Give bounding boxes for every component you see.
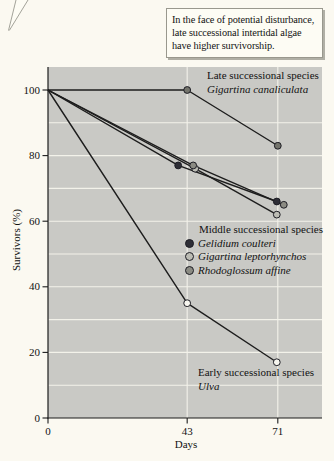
legend-item-rhodoglossum-affine: Rhodoglossum affine <box>185 264 323 278</box>
legend-label: Rhodoglossum affine <box>198 264 291 278</box>
series-marker <box>184 87 191 94</box>
rhodoglossum-affine-marker-icon <box>185 266 194 275</box>
legend-label: Gigartina leptorhynchos <box>198 250 306 264</box>
callout-line-3: have higher survivorship. <box>172 39 317 52</box>
y-tick-label: 60 <box>29 215 41 227</box>
middle-heading: Middle successional species <box>199 223 323 237</box>
callout-box: In the face of potential disturbance, la… <box>166 8 323 58</box>
x-tick-label: 43 <box>182 425 194 437</box>
x-axis-title: Days <box>164 438 208 450</box>
gigartina-leptorhynchos-marker-icon <box>185 252 194 261</box>
y-tick-label: 100 <box>24 84 41 96</box>
series-marker <box>273 211 280 218</box>
series-marker <box>175 162 182 169</box>
legend-item-gigartina-leptorhynchos: Gigartina leptorhynchos <box>185 250 323 264</box>
y-tick-label: 0 <box>35 412 41 424</box>
legend-label: Gelidium coulteri <box>198 237 276 251</box>
x-tick-label: 0 <box>45 425 51 437</box>
series-marker <box>274 142 281 149</box>
series-marker <box>184 300 191 307</box>
late-species-name: Gigartina canaliculata <box>207 83 319 97</box>
callout-tail <box>0 0 36 34</box>
early-heading: Early successional species <box>198 366 314 380</box>
series-marker <box>190 162 197 169</box>
y-tick-label: 80 <box>29 149 41 161</box>
gelidium-coulteri-marker-icon <box>185 239 194 248</box>
legend-item-gelidium-coulteri: Gelidium coulteri <box>185 237 323 251</box>
succession-survivorship-figure: 02040608010004371 In the face of potenti… <box>0 0 334 461</box>
series-marker <box>280 201 287 208</box>
late-successional-label: Late successional species Gigartina cana… <box>207 69 319 96</box>
y-tick-label: 20 <box>29 346 41 358</box>
early-successional-label: Early successional species Ulva <box>198 366 314 393</box>
series-marker <box>273 198 280 205</box>
callout-line-2: late successional intertidal algae <box>172 26 317 39</box>
x-tick-label: 71 <box>272 425 283 437</box>
y-tick-label: 40 <box>29 280 41 292</box>
callout-line-1: In the face of potential disturbance, <box>172 13 317 26</box>
series-marker <box>273 359 280 366</box>
early-species-name: Ulva <box>198 380 314 394</box>
middle-successional-legend: Middle successional species Gelidium cou… <box>185 223 323 277</box>
y-axis-title: Survivors (%) <box>10 209 22 271</box>
late-heading: Late successional species <box>207 69 319 83</box>
